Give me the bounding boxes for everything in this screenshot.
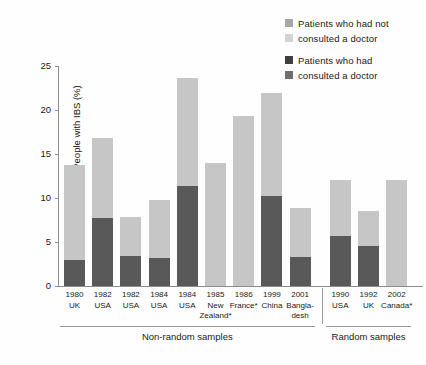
x-label-year: 1986 bbox=[235, 290, 253, 299]
bar-segment-consulted bbox=[358, 246, 379, 286]
legend-swatch-not-consulted-lower bbox=[285, 34, 293, 42]
group-label: Random samples bbox=[326, 331, 411, 342]
x-label-year: 1980 bbox=[66, 290, 84, 299]
y-tick-label: 5 bbox=[46, 236, 51, 247]
x-label-year: 1992 bbox=[360, 290, 378, 299]
bar-stack bbox=[205, 163, 226, 286]
bar-segment-not-consulted bbox=[64, 165, 85, 260]
x-label-year: 2002 bbox=[388, 290, 406, 299]
legend-label-not-consulted-line2: consulted a doctor bbox=[298, 31, 377, 46]
y-tick-label: 25 bbox=[40, 60, 51, 71]
bar-stack bbox=[64, 165, 85, 286]
x-tick-label: 2002Canada* bbox=[380, 290, 414, 311]
x-axis-line bbox=[58, 286, 423, 287]
legend-row: consulted a doctor bbox=[285, 31, 425, 46]
bar-segment-not-consulted bbox=[149, 200, 170, 258]
bar-stack bbox=[358, 211, 379, 286]
bar-segment-not-consulted bbox=[386, 180, 407, 286]
bar-segment-consulted bbox=[64, 260, 85, 286]
bar-segment-not-consulted bbox=[330, 180, 351, 235]
bar-stack bbox=[92, 138, 113, 286]
x-label-year: 1984 bbox=[178, 290, 196, 299]
x-label-place: Canada* bbox=[380, 301, 414, 312]
x-label-place-cont: desh bbox=[283, 311, 317, 322]
bar-segment-consulted bbox=[330, 236, 351, 286]
y-tick-mark bbox=[55, 242, 59, 243]
x-label-year: 1999 bbox=[263, 290, 281, 299]
y-tick-label: 20 bbox=[40, 104, 51, 115]
group-separator-line bbox=[322, 288, 323, 324]
plot-area: People with IBS (%) 0510152025 bbox=[58, 66, 421, 286]
bar-segment-not-consulted bbox=[290, 208, 311, 257]
y-tick-mark bbox=[55, 198, 59, 199]
bar-segment-consulted bbox=[177, 186, 198, 286]
bar-segment-not-consulted bbox=[120, 217, 141, 257]
legend-label-not-consulted-line1: Patients who had not bbox=[298, 16, 389, 31]
legend-entry-not-consulted: Patients who had not consulted a doctor bbox=[285, 16, 425, 46]
bar-stack bbox=[120, 217, 141, 287]
y-tick-label: 15 bbox=[40, 148, 51, 159]
bar-stack bbox=[290, 208, 311, 286]
y-tick-mark bbox=[55, 154, 59, 155]
ibs-prevalence-bar-chart: Patients who had not consulted a doctor … bbox=[0, 0, 426, 365]
bar-segment-not-consulted bbox=[177, 78, 198, 185]
bar-stack bbox=[233, 116, 254, 286]
x-label-year: 1985 bbox=[207, 290, 225, 299]
y-tick-mark bbox=[55, 66, 59, 67]
bar-segment-consulted bbox=[120, 256, 141, 286]
y-tick-label: 10 bbox=[40, 192, 51, 203]
bar-stack bbox=[177, 78, 198, 286]
bar-segment-not-consulted bbox=[233, 116, 254, 286]
legend-swatch-consulted-upper bbox=[285, 56, 293, 64]
x-label-place: Bangla- bbox=[283, 301, 317, 312]
x-label-year: 1982 bbox=[94, 290, 112, 299]
legend-swatch-not-consulted-upper bbox=[285, 19, 293, 27]
y-tick-mark bbox=[55, 110, 59, 111]
x-label-year: 1990 bbox=[331, 290, 349, 299]
x-label-place-cont: Zealand* bbox=[199, 311, 233, 322]
x-tick-label: 2001Bangla-desh bbox=[283, 290, 317, 322]
x-label-year: 1984 bbox=[150, 290, 168, 299]
group-bracket-rule bbox=[326, 326, 411, 327]
bar-segment-not-consulted bbox=[92, 138, 113, 218]
x-label-year: 2001 bbox=[291, 290, 309, 299]
bar-segment-consulted bbox=[290, 257, 311, 286]
y-tick-mark bbox=[55, 286, 59, 287]
bar-segment-consulted bbox=[92, 218, 113, 286]
bar-stack bbox=[149, 200, 170, 286]
bar-stack bbox=[330, 180, 351, 286]
group-bracket-rule bbox=[60, 326, 315, 327]
bar-segment-consulted bbox=[261, 196, 282, 286]
bar-segment-not-consulted bbox=[358, 211, 379, 246]
bar-segment-consulted bbox=[149, 258, 170, 286]
bar-segment-not-consulted bbox=[261, 93, 282, 196]
bar-stack bbox=[261, 93, 282, 286]
x-axis-labels: 1980UK1982USA1982USA1984USA1984USA1985Ne… bbox=[58, 290, 423, 324]
legend-row: Patients who had not bbox=[285, 16, 425, 31]
x-label-year: 1982 bbox=[122, 290, 140, 299]
bar-segment-not-consulted bbox=[205, 163, 226, 286]
y-tick-label: 0 bbox=[46, 280, 51, 291]
group-label: Non-random samples bbox=[60, 331, 315, 342]
bar-stack bbox=[386, 180, 407, 286]
